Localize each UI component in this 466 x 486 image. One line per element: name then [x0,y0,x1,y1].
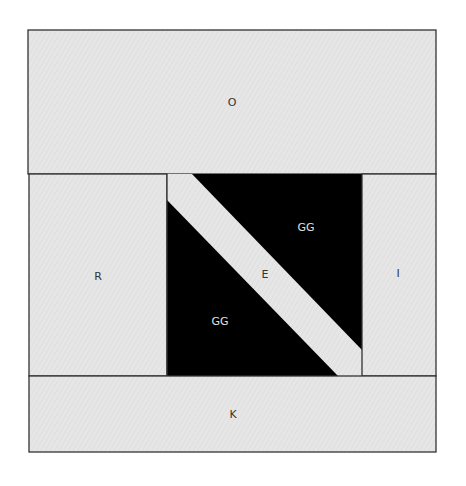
label-k: K [229,408,236,421]
label-r: R [94,270,102,283]
label-o: O [228,96,237,109]
label-gg-top: GG [297,221,314,234]
label-e: E [262,268,269,281]
label-gg-bottom: GG [211,315,228,328]
label-i: I [396,267,399,280]
